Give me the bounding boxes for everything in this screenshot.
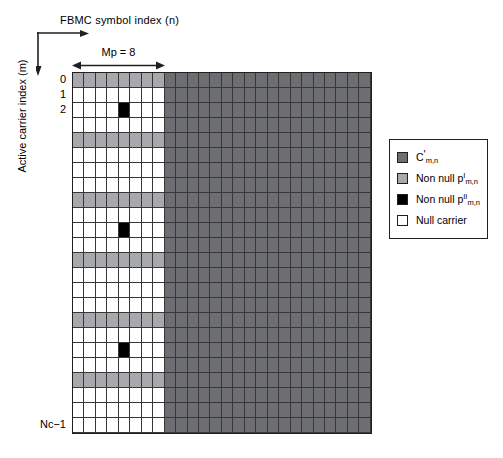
grid-cell [107,148,118,163]
grid-cell [256,193,267,208]
grid-cell [153,403,164,418]
grid-cell [325,418,336,433]
grid-cell [84,343,95,358]
grid-cell [233,223,244,238]
grid-cell [199,148,210,163]
grid-cell [176,343,187,358]
grid-cell [302,418,313,433]
legend-label-non-null-p1: Non null pIm,n [416,173,478,185]
grid-cell [73,358,84,373]
grid-cell [268,268,279,283]
grid-cell [279,163,290,178]
grid-cell [119,73,130,88]
grid-cell [336,283,347,298]
grid-cell [165,373,176,388]
grid-cell [130,313,141,328]
grid-cell [348,328,359,343]
grid-cell [130,268,141,283]
grid-cell [188,298,199,313]
grid-cell [130,283,141,298]
grid-cell [165,73,176,88]
grid-cell [256,313,267,328]
grid-cell [84,313,95,328]
grid-cell [73,253,84,268]
grid-cell [256,103,267,118]
grid-cell [222,328,233,343]
grid-cell [245,253,256,268]
grid-cell [291,103,302,118]
grid-cell [279,358,290,373]
grid-cell [142,178,153,193]
mp-label: Mp = 8 [72,46,165,58]
grid-cell [245,73,256,88]
grid-cell [73,133,84,148]
grid-cell [279,268,290,283]
grid-cell [73,208,84,223]
grid-cell [348,403,359,418]
grid-cell [210,208,221,223]
grid-cell [359,103,370,118]
grid-cell [336,328,347,343]
grid-cell [199,118,210,133]
grid-cell [336,418,347,433]
grid-cell [188,358,199,373]
grid-cell [176,193,187,208]
grid-cell [107,208,118,223]
grid-cell [130,418,141,433]
grid-cell [268,163,279,178]
grid-cell [153,88,164,103]
grid-cell [142,73,153,88]
grid-cell [222,403,233,418]
grid-cell [142,418,153,433]
grid-cell [130,178,141,193]
grid-cell [291,388,302,403]
grid-cell [210,298,221,313]
grid-cell [314,313,325,328]
grid-cell [302,148,313,163]
grid-cell [325,178,336,193]
grid-cell [107,343,118,358]
grid-cell [325,403,336,418]
grid-cell [336,358,347,373]
grid-cell [96,343,107,358]
grid-cell [279,388,290,403]
grid-cell [233,253,244,268]
grid-cell [245,373,256,388]
grid-cell [348,388,359,403]
grid-cell [325,88,336,103]
grid-cell [268,373,279,388]
grid-cell [302,103,313,118]
grid-cell [188,103,199,118]
grid-cell [336,238,347,253]
grid-cell [336,298,347,313]
grid-cell [325,133,336,148]
grid-cell [302,268,313,283]
grid-cell [348,298,359,313]
grid-cell [233,163,244,178]
grid-cell [233,178,244,193]
grid-cell [256,328,267,343]
grid-cell [314,133,325,148]
grid-cell [336,208,347,223]
grid-cell [73,283,84,298]
grid-cell [199,373,210,388]
grid-cell [84,298,95,313]
grid-cell [302,403,313,418]
grid-cell [142,88,153,103]
grid-cell [348,343,359,358]
grid-cell [359,268,370,283]
grid-cell [336,118,347,133]
grid-cell [153,358,164,373]
grid-cell [359,298,370,313]
grid-cell [188,88,199,103]
row-label-1: 1 [44,89,66,100]
grid-cell [233,313,244,328]
grid-cell [336,163,347,178]
grid-cell [165,343,176,358]
grid-cell [84,283,95,298]
grid-cell [325,193,336,208]
grid-cell [222,283,233,298]
grid-cell [348,133,359,148]
grid-cell [165,253,176,268]
grid-cell [279,148,290,163]
